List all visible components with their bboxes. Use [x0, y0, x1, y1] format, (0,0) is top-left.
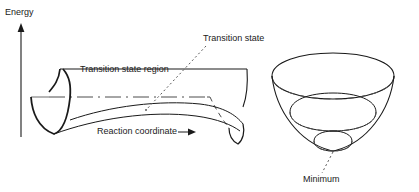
reaction-coordinate-label: Reaction coordinate [97, 127, 177, 136]
saddle-back-right-wall [243, 69, 247, 107]
bowl-wall-left [272, 76, 329, 150]
energy-surface-figure: Energy Transition state region Transitio… [0, 0, 419, 192]
bowl-rim-front [272, 76, 394, 99]
bowl-inner-contour-top [314, 131, 352, 141]
energy-axis-label: Energy [5, 8, 34, 17]
bowl-minimum-marker [332, 150, 334, 152]
transition-state-region-label: Transition state region [80, 65, 169, 74]
saddle-left-valley-front [31, 69, 70, 134]
bowl-wall-right [337, 76, 394, 150]
figure-canvas [0, 0, 419, 192]
saddle-back-left-wall [49, 69, 60, 92]
bowl-rim-back [272, 53, 394, 76]
bowl-rim-hidden-arc [272, 76, 394, 99]
minimum-leader [322, 152, 333, 173]
minimum-leader-line [322, 152, 333, 173]
transition-state-leader-line [146, 46, 206, 110]
bowl-surface [272, 53, 394, 152]
energy-axis-arrowhead [18, 23, 25, 32]
transition-state-label: Transition state [203, 34, 264, 43]
reaction-coordinate-arrow [178, 129, 196, 136]
minimum-label: Minimum [303, 175, 340, 184]
bowl-inner-contour-hidden [314, 141, 352, 151]
energy-axis [18, 23, 25, 137]
transition-state-leader [146, 46, 206, 110]
bowl-mid-contour-hidden [290, 112, 376, 131]
reaction-coordinate-arrowhead [188, 129, 196, 136]
bowl-inner-contour-front [314, 141, 352, 151]
bowl-mid-contour-front [290, 112, 376, 131]
saddle-right-valley-front [229, 124, 244, 144]
